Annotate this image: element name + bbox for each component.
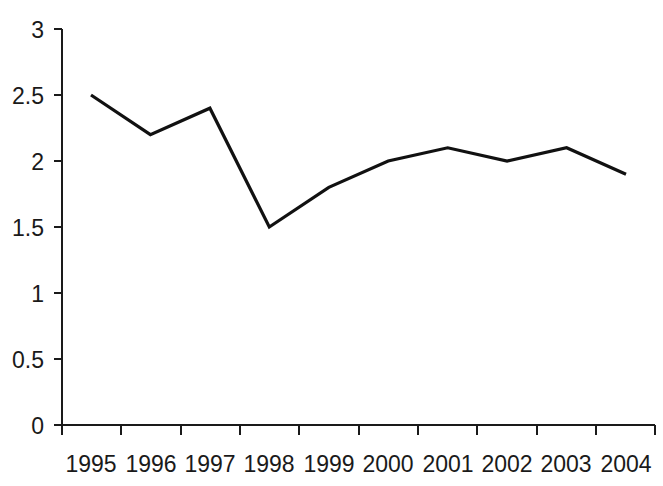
y-axis-tick-labels: 3 2.5 2 1.5 1 0.5 0 bbox=[12, 17, 44, 439]
x-tick-label: 2002 bbox=[481, 451, 532, 477]
x-axis-tick-labels: 1995 1996 1997 1998 1999 2000 2001 2002 … bbox=[65, 451, 651, 477]
y-axis-ticks bbox=[54, 29, 62, 425]
chart-canvas: 3 2.5 2 1.5 1 0.5 0 1995 1996 1997 bbox=[0, 0, 663, 486]
y-tick-label: 0.5 bbox=[12, 347, 44, 373]
y-tick-label: 0 bbox=[31, 413, 44, 439]
x-tick-label: 1995 bbox=[65, 451, 116, 477]
data-series-line bbox=[91, 95, 626, 227]
x-tick-label: 1996 bbox=[125, 451, 176, 477]
x-tick-label: 2004 bbox=[600, 451, 651, 477]
y-tick-label: 2 bbox=[31, 149, 44, 175]
x-axis-ticks bbox=[62, 425, 655, 435]
x-tick-label: 1997 bbox=[184, 451, 235, 477]
x-tick-label: 2003 bbox=[540, 451, 591, 477]
x-tick-label: 1998 bbox=[243, 451, 294, 477]
y-tick-label: 3 bbox=[31, 17, 44, 43]
x-tick-label: 2001 bbox=[422, 451, 473, 477]
y-tick-label: 1 bbox=[31, 281, 44, 307]
y-tick-label: 1.5 bbox=[12, 215, 44, 241]
y-tick-label: 2.5 bbox=[12, 83, 44, 109]
line-chart: 3 2.5 2 1.5 1 0.5 0 1995 1996 1997 bbox=[0, 0, 663, 486]
x-tick-label: 1999 bbox=[303, 451, 354, 477]
x-tick-label: 2000 bbox=[362, 451, 413, 477]
